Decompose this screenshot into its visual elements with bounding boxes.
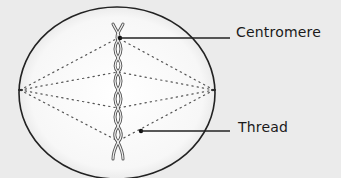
thread-label: Thread bbox=[238, 119, 288, 135]
centromere-label: Centromere bbox=[236, 24, 321, 40]
